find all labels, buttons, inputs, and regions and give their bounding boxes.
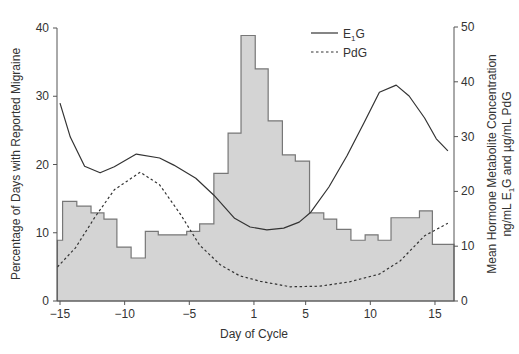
right-tick-label: 0	[461, 294, 468, 308]
x-axis-ticks: −15−10−5151015	[50, 301, 442, 321]
legend-e1g-label: E1G	[343, 27, 365, 43]
right-axis-ticks: 01020304050	[454, 20, 475, 308]
left-axis-title: Percentage of Days with Reported Migrain…	[9, 48, 23, 280]
x-tick-label: 15	[428, 307, 442, 321]
histogram-area	[57, 36, 454, 301]
x-tick-label: 5	[302, 307, 309, 321]
x-tick-label: 1	[251, 307, 258, 321]
left-tick-label: 10	[36, 226, 50, 240]
x-tick-label: 10	[364, 307, 378, 321]
right-axis-title-line2: ng/mL E1G and µg/mL PdG	[500, 91, 516, 236]
migraine-histogram	[57, 36, 454, 301]
right-tick-label: 20	[461, 184, 475, 198]
left-tick-label: 30	[36, 89, 50, 103]
x-tick-label: −5	[182, 307, 196, 321]
right-tick-label: 30	[461, 130, 475, 144]
legend: E1G PdG	[311, 27, 367, 60]
x-tick-label: −15	[50, 307, 71, 321]
right-tick-label: 10	[461, 239, 475, 253]
legend-pdg-label: PdG	[343, 46, 367, 60]
left-tick-label: 0	[42, 294, 49, 308]
left-tick-label: 20	[36, 158, 50, 172]
left-axis-ticks: 010203040	[36, 21, 57, 308]
right-tick-label: 50	[461, 20, 475, 34]
chart-figure: 010203040 01020304050 −15−10−5151015 Day…	[0, 0, 519, 354]
left-tick-label: 40	[36, 21, 50, 35]
right-tick-label: 40	[461, 75, 475, 89]
x-tick-label: −10	[114, 307, 135, 321]
chart-canvas: 010203040 01020304050 −15−10−5151015 Day…	[0, 0, 519, 354]
x-axis-title: Day of Cycle	[220, 327, 288, 341]
right-axis-title-line1: Mean Hormone Metabolite Concentration	[485, 54, 499, 273]
